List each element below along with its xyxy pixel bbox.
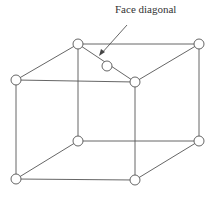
atom — [11, 174, 21, 184]
atom — [194, 136, 204, 146]
face-diagonal-label: Face diagonal — [115, 3, 176, 15]
atom — [11, 75, 21, 85]
atom — [194, 39, 204, 49]
edge — [135, 141, 199, 180]
edge — [16, 179, 135, 180]
arrow-line — [101, 25, 127, 54]
edge — [135, 44, 199, 82]
face-center-atom — [102, 61, 112, 71]
edge — [16, 141, 78, 179]
atom — [130, 175, 140, 185]
atom — [130, 77, 140, 87]
atom — [73, 39, 83, 49]
edge — [16, 80, 135, 82]
cube-lattice — [0, 0, 216, 198]
atom — [73, 136, 83, 146]
edge — [16, 44, 78, 80]
